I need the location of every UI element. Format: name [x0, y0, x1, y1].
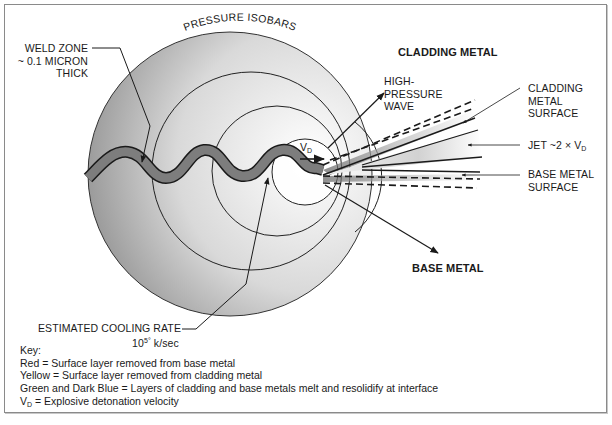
jet-label-subscript: D: [581, 145, 586, 152]
detonation-velocity-label: VD: [300, 141, 312, 158]
key-heading: Key:: [20, 344, 438, 357]
jet-label: JET ~2 × VD: [528, 139, 587, 156]
jet-label-text: JET ~2 × V: [528, 139, 581, 151]
key-legend: Key: Red = Surface layer removed from ba…: [20, 344, 438, 412]
weld-zone-label: WELD ZONE ~ 0.1 MICRON THICK: [12, 42, 88, 80]
bms-line-1: BASE METAL: [528, 168, 594, 181]
hpw-line-2: PRESSURE: [384, 88, 443, 101]
key-item-green-blue: Green and Dark Blue = Layers of cladding…: [20, 382, 438, 395]
vd-subscript: D: [307, 147, 312, 154]
weld-zone-line-2: ~ 0.1 MICRON: [12, 55, 88, 68]
key-item-yellow: Yellow = Surface layer removed from clad…: [20, 369, 438, 382]
cms-line-2: METAL: [528, 95, 583, 108]
bms-line-2: SURFACE: [528, 181, 594, 194]
cladding-metal-label: CLADDING METAL: [398, 46, 498, 59]
cms-line-1: CLADDING: [528, 82, 583, 95]
base-metal-label: BASE METAL: [412, 262, 484, 275]
key-item-vd: VD = Explosive detonation velocity: [20, 395, 438, 412]
key-item-red: Red = Surface layer removed from base me…: [20, 357, 438, 370]
weld-zone-line-3: THICK: [12, 67, 88, 80]
high-pressure-wave-label: HIGH- PRESSURE WAVE: [384, 75, 443, 113]
cladding-surface-leader: [463, 88, 520, 123]
cms-line-3: SURFACE: [528, 107, 583, 120]
base-surface-line: [362, 170, 480, 172]
hpw-line-1: HIGH-: [384, 75, 443, 88]
base-metal-surface-label: BASE METAL SURFACE: [528, 168, 594, 193]
cooling-rate-line-1: ESTIMATED COOLING RATE: [36, 322, 181, 335]
cladding-metal-surface-label: CLADDING METAL SURFACE: [528, 82, 583, 120]
weld-zone-line-1: WELD ZONE: [12, 42, 88, 55]
pressure-isobars-label: PRESSURE ISOBARS: [182, 11, 299, 33]
hpw-line-3: WAVE: [384, 100, 443, 113]
